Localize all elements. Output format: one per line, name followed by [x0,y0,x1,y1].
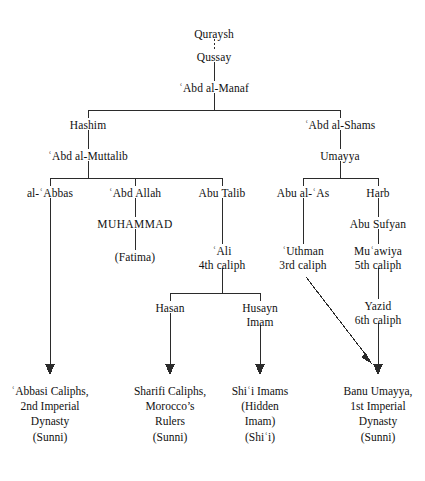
node-abu-talib-label: Abu Talib [199,186,246,200]
arrowhead-uthman-diagonal [361,353,372,364]
node-fatima: (Fatima) [115,250,155,264]
node-abd-al-manaf-label: ʿAbd al-Manaf [179,81,249,95]
leaf-line: Banu Umayya, [344,384,413,399]
node-husayn-title: Imam [242,315,278,329]
leaf-line: (Hidden [232,399,289,414]
node-muawiya-caliph-order: 5th caliph [354,258,402,272]
node-abd-allah-label: ʿAbd Allah [109,186,161,200]
leaf-line: (Shiʿi) [232,430,289,445]
node-abu-al-as: Abu al-ʿAs [277,186,329,200]
node-abd-al-muttalib-label: ʿAbd al-Muttalib [48,149,128,163]
leaf-shii-imams: Shiʿi Imams (Hidden Imam) (Shiʿi) [232,384,289,445]
arrowhead-banuumayya [373,364,383,375]
leaf-line: Rulers [134,414,206,429]
leaf-line: Shiʿi Imams [232,384,289,399]
leaf-sharifi-caliphs: Sharifi Caliphs, Morocco’s Rulers (Sunni… [134,384,206,445]
leaf-line: (Sunni) [134,430,206,445]
node-hasan: Hasan [155,301,184,315]
node-abu-al-as-label: Abu al-ʿAs [277,186,329,200]
node-al-abbas: al-ʿAbbas [27,186,73,200]
node-abu-sufyan-label: Abu Sufyan [350,217,406,231]
node-hashim: Hashim [70,118,106,132]
leaf-line: (Sunni) [11,430,88,445]
genealogy-diagram: Quraysh Qussay ʿAbd al-Manaf Hashim ʿAbd… [0,0,425,481]
node-abd-al-manaf: ʿAbd al-Manaf [179,81,249,95]
node-abd-al-shams-label: ʿAbd al-Shams [305,118,376,132]
node-qussay: Qussay [197,50,231,64]
node-muhammad-label: MUHAMMAD [97,217,172,231]
node-ali-name: ʿAli [199,244,246,258]
leaf-line: 1st Imperial [344,399,413,414]
node-ali: ʿAli 4th caliph [199,244,246,272]
node-husayn: Husayn Imam [242,301,278,329]
leaf-line: ʿAbbasi Caliphs, [11,384,88,399]
node-ali-caliph-order: 4th caliph [199,258,246,272]
node-quraysh: Quraysh [194,27,234,41]
leaf-line: Sharifi Caliphs, [134,384,206,399]
leaf-line: Dynasty [344,414,413,429]
node-abu-sufyan: Abu Sufyan [350,217,406,231]
node-fatima-label: (Fatima) [115,250,155,264]
leaf-line: Dynasty [11,414,88,429]
leaf-line: Morocco’s [134,399,206,414]
node-yazid-name: Yazid [355,299,402,313]
leaf-line: 2nd Imperial [11,399,88,414]
arrowhead-sharifi [165,364,175,375]
leaf-line: (Sunni) [344,430,413,445]
arrowhead-shii [255,364,265,375]
node-quraysh-label: Quraysh [194,27,234,41]
node-husayn-name: Husayn [242,301,278,315]
node-muawiya: Muʿawiya 5th caliph [354,244,402,272]
arrowhead-abbasi [45,364,55,375]
node-hasan-label: Hasan [155,301,184,315]
node-qussay-label: Qussay [197,50,231,64]
node-al-abbas-label: al-ʿAbbas [27,186,73,200]
node-yazid: Yazid 6th caliph [355,299,402,327]
node-muhammad: MUHAMMAD [97,217,172,231]
node-uthman: ʿUthman 3rd caliph [279,244,326,272]
leaf-abbasi-caliphs: ʿAbbasi Caliphs, 2nd Imperial Dynasty (S… [11,384,88,445]
leaf-line: Imam) [232,414,289,429]
node-hashim-label: Hashim [70,118,106,132]
node-abu-talib: Abu Talib [199,186,246,200]
node-uthman-caliph-order: 3rd caliph [279,258,326,272]
node-abd-al-muttalib: ʿAbd al-Muttalib [48,149,128,163]
node-umayya: Umayya [320,149,360,163]
node-harb: Harb [366,186,389,200]
node-muawiya-name: Muʿawiya [354,244,402,258]
leaf-banu-umayya: Banu Umayya, 1st Imperial Dynasty (Sunni… [344,384,413,445]
node-abd-allah: ʿAbd Allah [109,186,161,200]
node-abd-al-shams: ʿAbd al-Shams [305,118,376,132]
node-yazid-caliph-order: 6th caliph [355,313,402,327]
node-umayya-label: Umayya [320,149,360,163]
node-uthman-name: ʿUthman [279,244,326,258]
node-harb-label: Harb [366,186,389,200]
